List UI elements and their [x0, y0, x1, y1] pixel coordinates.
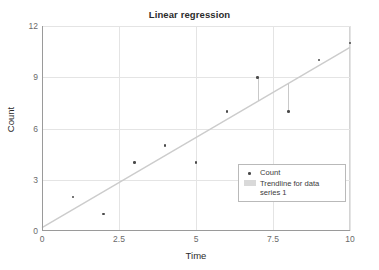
y-tick-label: 12 [29, 21, 38, 31]
residual-line [258, 77, 259, 101]
x-axis-title: Time [42, 250, 350, 261]
x-axis-line [42, 230, 350, 231]
x-tick-label: 10 [345, 234, 354, 244]
data-point[interactable] [226, 110, 229, 113]
x-tick-label: 2.5 [113, 234, 125, 244]
data-point[interactable] [256, 76, 259, 79]
x-tick-label: 7.5 [267, 234, 279, 244]
data-point[interactable] [102, 213, 105, 216]
y-tick-label: 6 [33, 124, 38, 134]
y-tick-label: 9 [33, 72, 38, 82]
legend-label: Trendline for data series 1 [260, 179, 341, 198]
data-point[interactable] [133, 161, 136, 164]
y-tick-label: 3 [33, 175, 38, 185]
y-axis-title: Count [5, 90, 16, 150]
chart-legend[interactable]: CountTrendline for data series 1 [238, 164, 346, 202]
linear-regression-chart: Linear regression Count Time 036912 02.5… [0, 0, 379, 270]
legend-label: Count [260, 168, 341, 178]
y-axis-tick-labels: 036912 [16, 26, 38, 231]
legend-line-swatch-icon [243, 179, 257, 189]
dot-icon [248, 172, 251, 175]
residual-line [288, 83, 289, 111]
swatch-icon [244, 180, 256, 186]
x-tick-label: 0 [40, 234, 45, 244]
y-tick-label: 0 [33, 226, 38, 236]
y-axis-line [42, 26, 43, 231]
gridline-vertical [350, 26, 351, 231]
legend-entry[interactable]: Trendline for data series 1 [243, 179, 341, 198]
chart-title: Linear regression [0, 9, 379, 20]
x-axis-tick-labels: 02.557.510 [42, 234, 350, 248]
x-tick-label: 5 [194, 234, 199, 244]
legend-dot-marker-icon [243, 168, 257, 178]
legend-entry[interactable]: Count [243, 168, 341, 178]
data-point[interactable] [287, 110, 290, 113]
